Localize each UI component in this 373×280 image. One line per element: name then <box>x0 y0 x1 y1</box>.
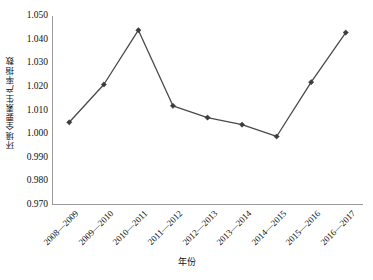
x-axis-tick-label-text: 2009—2010 <box>77 209 115 247</box>
x-axis-tick-label-text: 2016—2017 <box>319 209 357 247</box>
x-axis-tick-label-text: 2015—2016 <box>284 209 322 247</box>
x-axis-tick-labels: 2008—20092009—20102010—20112011—20122012… <box>0 0 373 280</box>
x-axis-tick-label-text: 2008—2009 <box>42 209 80 247</box>
x-axis-title: 年份 <box>0 258 373 267</box>
x-axis-tick-label-text: 2010—2011 <box>112 209 150 247</box>
x-axis-tick-label-text: 2013—2014 <box>215 209 253 247</box>
x-axis-tick-label-text: 2012—2013 <box>181 209 219 247</box>
x-axis-tick-label-text: 2014—2015 <box>250 209 288 247</box>
chart-container: 环境全要素生产率指数 1.0501.0401.0301.0201.0101.00… <box>0 0 373 280</box>
x-axis-tick-label-text: 2011—2012 <box>146 209 184 247</box>
